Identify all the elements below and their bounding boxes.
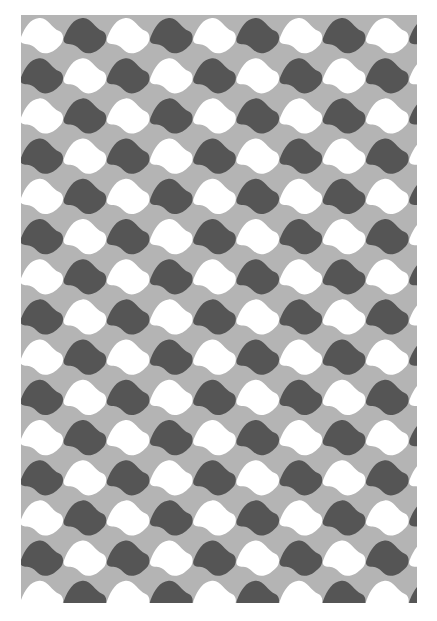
wave-pattern-region	[21, 15, 417, 603]
wave-pattern-graphic	[21, 15, 417, 603]
